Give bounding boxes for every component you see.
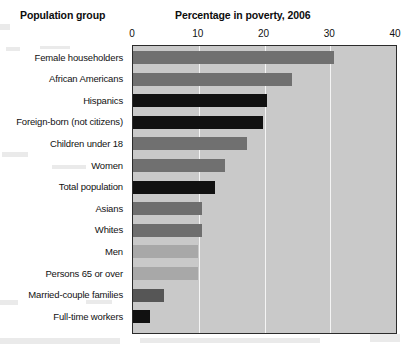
bar [133,51,334,64]
bar [133,137,247,150]
bar [133,202,202,215]
bar [133,159,225,172]
category-label: African Americans [0,73,128,84]
population-group-header: Population group [20,9,105,21]
category-label: Hispanics [0,95,128,106]
plot-area [132,45,397,334]
scan-artifact [0,338,120,344]
bar [133,245,198,258]
bars-container [133,46,396,333]
category-labels: Female householdersAfrican AmericansHisp… [0,45,128,332]
poverty-bar-chart: Population group Percentage in poverty, … [0,0,404,346]
category-label: Children under 18 [0,138,128,149]
category-label: Persons 65 or over [0,268,128,279]
bar [133,73,292,86]
category-label: Whites [0,224,128,235]
category-label: Asians [0,203,128,214]
category-label: Full-time workers [0,311,128,322]
chart-title: Percentage in poverty, 2006 [175,9,310,21]
scan-artifact [140,338,320,343]
bar [133,289,164,302]
x-tick-label-20: 20 [258,28,269,39]
category-label: Foreign-born (not citizens) [0,116,128,127]
category-label: Men [0,246,128,257]
bar [133,267,198,280]
bar [133,116,263,129]
x-axis-tick-labels: 010203040 [0,28,404,42]
bar [133,310,150,323]
category-label: Married-couple families [0,289,128,300]
category-label: Women [0,160,128,171]
x-tick-label-30: 30 [324,28,335,39]
category-label: Total population [0,181,128,192]
bar [133,224,202,237]
scan-artifact [370,334,400,342]
x-tick-label-10: 10 [192,28,203,39]
bar [133,94,267,107]
bar [133,181,215,194]
x-tick-label-0: 0 [129,28,135,39]
category-label: Female householders [0,52,128,63]
x-tick-label-40: 40 [389,28,400,39]
